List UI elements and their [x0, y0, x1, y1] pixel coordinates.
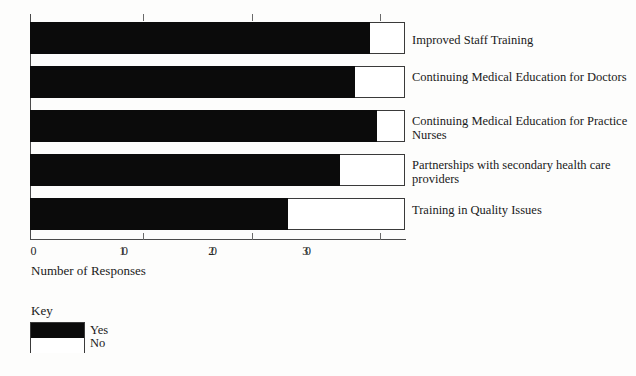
- x-tick-mark-top-10: [143, 14, 144, 21]
- category-label: Partnerships with secondary health care …: [412, 158, 634, 186]
- category-label: Continuing Medical Education for Practic…: [412, 114, 634, 142]
- bar-row: [30, 22, 405, 54]
- x-tick-mark-top-30: [380, 14, 381, 21]
- bar-row: [30, 198, 405, 230]
- category-label: Continuing Medical Education for Doctors: [412, 70, 634, 84]
- legend-label-no: No: [90, 337, 105, 350]
- bar-segment-yes: [30, 22, 370, 54]
- bar-row: [30, 154, 405, 186]
- bar-segment-yes: [30, 198, 288, 230]
- x-tick-label-20: 20: [208, 244, 214, 259]
- bar-row: [30, 66, 405, 98]
- x-tick-label-10: 10: [119, 244, 125, 259]
- x-tick-label-30: 30: [302, 244, 308, 259]
- bar-row: [30, 110, 405, 142]
- x-axis-title: Number of Responses: [31, 263, 146, 279]
- legend-swatch-yes: [31, 323, 84, 338]
- x-axis-line: [30, 239, 406, 240]
- legend-swatch-no: [31, 338, 84, 353]
- legend-title: Key: [31, 303, 53, 319]
- x-tick-mark-20: [252, 233, 253, 240]
- x-tick-mark-10: [143, 233, 144, 240]
- bar-segment-yes: [30, 110, 377, 142]
- bar-segment-yes: [30, 154, 340, 186]
- stacked-bar-chart: 0 10 20 30 Improved Staff Training Conti…: [0, 0, 636, 376]
- x-tick-mark-top-20: [252, 14, 253, 21]
- x-tick-label-0: 0: [31, 244, 34, 259]
- legend-swatch-box: [30, 322, 85, 353]
- category-label: Improved Staff Training: [412, 33, 634, 47]
- category-label: Training in Quality Issues: [412, 203, 634, 217]
- bar-segment-yes: [30, 66, 355, 98]
- x-tick-mark-30: [380, 233, 381, 240]
